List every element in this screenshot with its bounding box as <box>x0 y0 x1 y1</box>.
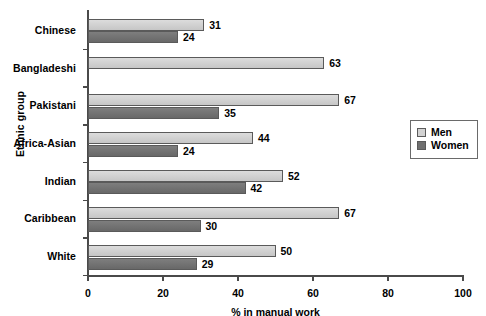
bar-women-chinese <box>88 31 178 43</box>
bar-value-label: 30 <box>206 220 218 232</box>
y-axis-tick <box>83 86 88 87</box>
bar-value-label: 44 <box>258 132 270 144</box>
bar-men-pakistani <box>88 94 339 106</box>
x-axis-tick-label: 100 <box>454 287 472 299</box>
bar-value-label: 42 <box>251 182 263 194</box>
y-axis-tick <box>83 162 88 163</box>
y-axis-tick <box>83 49 88 50</box>
category-label: Africa-Asian <box>0 137 76 149</box>
x-axis-tick <box>462 276 463 281</box>
legend-label: Women <box>431 140 469 151</box>
x-axis-tick-label: 20 <box>157 287 169 299</box>
y-axis-tick <box>83 275 88 276</box>
bar-value-label: 63 <box>329 57 341 69</box>
bar-value-label: 24 <box>183 31 195 43</box>
y-axis-tick <box>83 124 88 125</box>
bar-men-chinese <box>88 19 204 31</box>
legend-label: Men <box>431 127 452 138</box>
grouped-bar-chart: Ethnic group ChineseBangladeshiPakistani… <box>0 0 486 316</box>
category-label: Pakistani <box>0 99 76 111</box>
x-axis-tick-label: 40 <box>232 287 244 299</box>
legend-item-men: Men <box>417 126 469 139</box>
bar-women-africa-asian <box>88 145 178 157</box>
x-axis-tick-label: 0 <box>85 287 91 299</box>
bar-women-white <box>88 258 197 270</box>
category-axis-labels: ChineseBangladeshiPakistaniAfrica-AsianI… <box>0 12 82 276</box>
bar-value-label: 24 <box>183 145 195 157</box>
bar-women-caribbean <box>88 220 201 232</box>
bar-value-label: 29 <box>202 258 214 270</box>
bar-men-bangladeshi <box>88 57 324 69</box>
bar-men-indian <box>88 170 283 182</box>
bar-value-label: 67 <box>344 207 356 219</box>
bar-men-white <box>88 245 276 257</box>
category-label: White <box>0 250 76 262</box>
bar-value-label: 35 <box>224 107 236 119</box>
category-label: Indian <box>0 175 76 187</box>
category-label: Caribbean <box>0 212 76 224</box>
y-axis-tick <box>83 200 88 201</box>
bar-women-indian <box>88 182 246 194</box>
legend: MenWomen <box>410 120 478 159</box>
bar-men-caribbean <box>88 207 339 219</box>
x-axis-tick <box>162 276 163 281</box>
bar-value-label: 31 <box>209 19 221 31</box>
x-axis-tick <box>87 276 88 281</box>
legend-swatch-icon <box>417 141 426 150</box>
legend-item-women: Women <box>417 139 469 152</box>
plot-area: % in manual work 02040608010031246367354… <box>88 12 463 276</box>
x-axis-tick-label: 60 <box>307 287 319 299</box>
category-label: Chinese <box>0 24 76 36</box>
legend-swatch-icon <box>417 128 426 137</box>
bar-value-label: 67 <box>344 94 356 106</box>
bar-women-pakistani <box>88 107 219 119</box>
x-axis-line <box>87 275 464 277</box>
category-label: Bangladeshi <box>0 62 76 74</box>
x-axis-tick-label: 80 <box>382 287 394 299</box>
y-axis-tick <box>83 237 88 238</box>
x-axis-tick <box>237 276 238 281</box>
x-axis-title: % in manual work <box>88 306 463 316</box>
bar-men-africa-asian <box>88 132 253 144</box>
x-axis-tick <box>387 276 388 281</box>
bar-value-label: 52 <box>288 170 300 182</box>
bar-value-label: 50 <box>281 245 293 257</box>
x-axis-tick <box>312 276 313 281</box>
